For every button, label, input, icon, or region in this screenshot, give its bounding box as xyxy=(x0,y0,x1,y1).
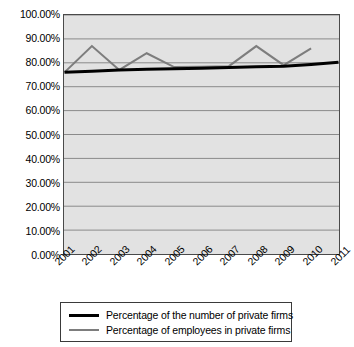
y-axis-tick-label: 20.00% xyxy=(26,201,60,213)
y-axis-tick-label: 80.00% xyxy=(26,56,60,68)
chart-legend: Percentage of the number of private firm… xyxy=(60,302,292,342)
series-layer xyxy=(64,15,339,254)
y-axis-tick-label: 100.00% xyxy=(20,8,60,20)
gridlines-group xyxy=(64,15,339,230)
series-line-number-of-private-firms xyxy=(64,62,338,72)
y-axis-tick-label: 90.00% xyxy=(26,32,60,44)
y-axis-tick-label: 60.00% xyxy=(26,104,60,116)
plot-area xyxy=(63,14,340,255)
line-chart: 0.00%10.00%20.00%30.00%40.00%50.00%60.00… xyxy=(0,0,354,347)
y-axis-tick-label: 70.00% xyxy=(26,80,60,92)
y-axis-tick-label: 50.00% xyxy=(26,129,60,141)
y-axis-labels: 0.00%10.00%20.00%30.00%40.00%50.00%60.00… xyxy=(0,0,60,269)
legend-label: Percentage of employees in private firms xyxy=(106,325,290,336)
y-axis-tick-label: 40.00% xyxy=(26,153,60,165)
x-axis-labels: 2001200220032004200520062007200820092010… xyxy=(0,255,354,300)
legend-swatch-icon xyxy=(69,314,99,317)
legend-item-number-of-private-firms: Percentage of the number of private firm… xyxy=(69,308,293,322)
y-axis-tick-label: 10.00% xyxy=(26,225,60,237)
legend-swatch-icon xyxy=(69,329,99,331)
legend-label: Percentage of the number of private firm… xyxy=(106,310,293,321)
legend-item-employees-in-private-firms: Percentage of employees in private firms xyxy=(69,323,290,337)
y-axis-tick-label: 30.00% xyxy=(26,177,60,189)
